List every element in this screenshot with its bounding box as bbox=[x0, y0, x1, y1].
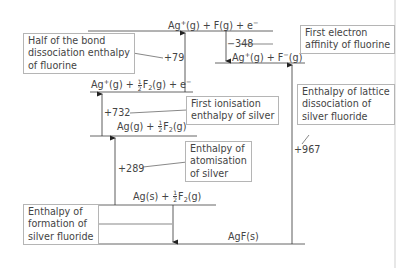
value-lattice: +967 bbox=[294, 144, 320, 156]
box-ionisation: First ionisation enthalpy of silver bbox=[186, 96, 279, 125]
value-ionisation: +732 bbox=[104, 107, 130, 119]
level-label-atomised: Ag(g) + 12F2(g) bbox=[117, 120, 186, 136]
box-electron-affinity: First electron affinity of fluorine bbox=[300, 25, 395, 54]
box-formation: Enthalpy of formation of silver fluoride bbox=[23, 204, 99, 245]
level-label-ionised: Ag+(g) + 12F2(g) + e− bbox=[91, 76, 191, 94]
value-bond-dissociation: +79 bbox=[164, 52, 184, 64]
level-label-elements: Ag(s) + 12F2(g) bbox=[133, 190, 201, 206]
level-label-after-ea: Ag+(g) + F−(g) bbox=[232, 49, 302, 64]
value-electron-affinity: −348 bbox=[227, 38, 253, 50]
box-lattice: Enthalpy of lattice dissociation of silv… bbox=[297, 84, 395, 125]
level-label-top: Ag+(g) + F(g) + e− bbox=[168, 17, 258, 32]
box-bond-dissociation: Half of the bond dissociation enthalpy o… bbox=[23, 33, 135, 74]
level-label-compound: AgF(s) bbox=[228, 231, 259, 243]
value-atomisation: +289 bbox=[118, 163, 144, 175]
box-atomisation: Enthalpy of atomisation of silver bbox=[185, 141, 252, 182]
